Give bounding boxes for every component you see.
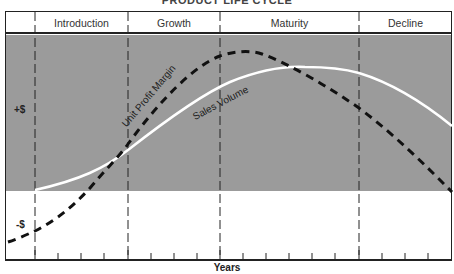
x-axis-label: Years bbox=[0, 262, 454, 273]
negative-dollar-label: -$ bbox=[16, 219, 25, 230]
positive-dollar-label: +$ bbox=[14, 104, 25, 115]
stage-dividers bbox=[35, 12, 359, 261]
unit-profit-margin-curve bbox=[8, 52, 452, 242]
x-axis-ticks bbox=[35, 250, 428, 261]
lifecycle-plot bbox=[0, 0, 454, 274]
